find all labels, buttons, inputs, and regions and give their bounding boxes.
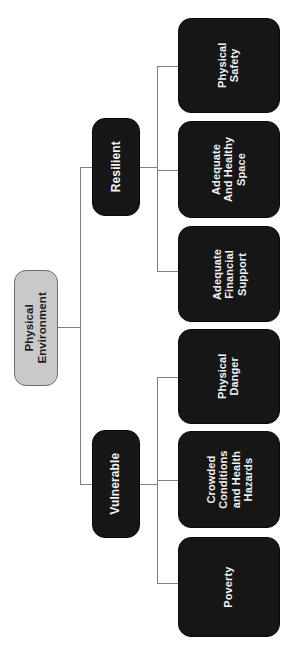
node-resilient[interactable]: Resilient <box>92 118 140 216</box>
connector-leaf-stub-poverty <box>157 583 179 584</box>
node-label: Poverty <box>223 566 235 607</box>
connector-leaf-stub-adequate-financial-support <box>157 271 179 272</box>
node-label: Resilient <box>109 142 122 193</box>
node-physical-environment[interactable]: Physical Environment <box>14 270 58 386</box>
node-adequate-and-healthy-space[interactable]: Adequate And Healthy Space <box>178 121 280 218</box>
connector-resilient-rail <box>157 66 158 271</box>
connector-resilient-stub <box>140 167 158 168</box>
node-label: Adequate And Healthy Space <box>211 137 248 202</box>
connector-root-stub <box>57 327 81 328</box>
connector-leaf-stub-crowded-conditions <box>157 480 179 481</box>
node-physical-safety[interactable]: Physical Safety <box>178 18 280 113</box>
node-adequate-financial-support[interactable]: Adequate Financial Support <box>178 226 280 322</box>
node-label: Vulnerable <box>109 453 122 515</box>
node-vulnerable[interactable]: Vulnerable <box>92 430 140 538</box>
diagram-canvas: Physical Environment Resilient Vulnerabl… <box>0 0 286 648</box>
node-label: Physical Safety <box>217 43 242 88</box>
node-label: Adequate Financial Support <box>211 249 248 300</box>
connector-main-trunk <box>80 167 81 485</box>
connector-leaf-stub-physical-safety <box>157 66 179 67</box>
connector-leaf-stub-physical-danger <box>157 377 179 378</box>
node-label: Physical Danger <box>217 354 242 399</box>
connector-leaf-stub-adequate-and-healthy-space <box>157 170 179 171</box>
node-crowded-conditions-and-health-hazards[interactable]: Crowded Conditions and Health Hazards <box>178 431 280 528</box>
node-label: Physical Environment <box>23 292 49 363</box>
node-label: Crowded Conditions and Health Hazards <box>204 450 253 508</box>
node-physical-danger[interactable]: Physical Danger <box>178 329 280 424</box>
node-poverty[interactable]: Poverty <box>178 537 280 637</box>
connector-vulnerable-stub <box>140 484 158 485</box>
